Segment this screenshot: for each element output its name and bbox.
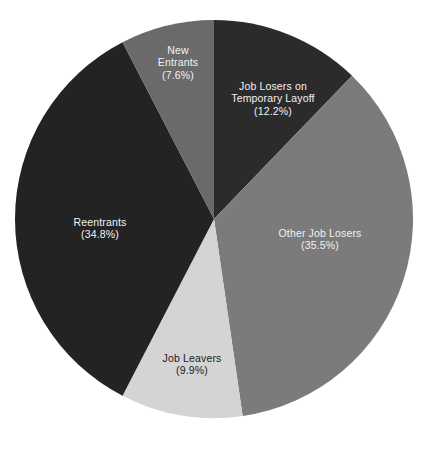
- pie-chart-svg: [0, 0, 429, 449]
- pie-chart-figure: Job Losers onTemporary Layoff(12.2%)Othe…: [0, 0, 429, 449]
